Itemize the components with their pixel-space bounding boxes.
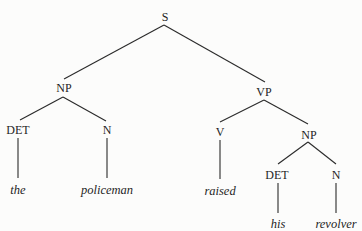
- tree-edges: [0, 0, 362, 231]
- leaf-revolver: revolver: [315, 218, 356, 231]
- leaf-policeman: policeman: [81, 184, 133, 197]
- node-v: V: [216, 126, 225, 138]
- leaf-the: the: [10, 184, 25, 197]
- edge-s-to-vp: [164, 25, 265, 82]
- node-np-object: NP: [301, 129, 316, 141]
- syntax-tree-diagram: S NP VP DET N V NP DET N the policeman r…: [0, 0, 362, 231]
- node-vp: VP: [256, 86, 271, 98]
- edge-s-to-np: [64, 25, 164, 79]
- edge-vp-to-v: [220, 100, 264, 122]
- leaf-his: his: [271, 218, 286, 231]
- edge-np-to-n: [308, 142, 336, 164]
- node-s: S: [162, 11, 169, 23]
- node-det-object: DET: [265, 169, 288, 181]
- node-n-subject: N: [103, 124, 112, 136]
- edge-vp-to-np: [264, 100, 308, 124]
- edge-np-to-det: [20, 97, 63, 120]
- node-np-subject: NP: [56, 82, 71, 94]
- leaf-raised: raised: [204, 185, 235, 198]
- node-n-object: N: [332, 169, 341, 181]
- edge-np-to-n: [63, 97, 106, 121]
- edge-np-to-det: [278, 142, 308, 164]
- node-det-subject: DET: [6, 124, 29, 136]
